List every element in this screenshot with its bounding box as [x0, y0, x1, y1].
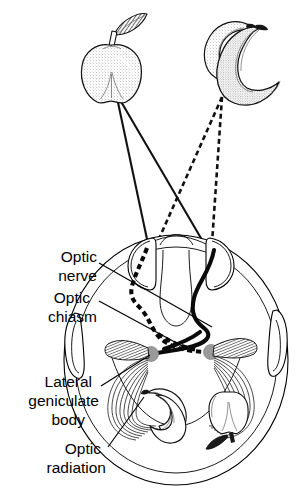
figure-canvas: Optic nerve Optic chiasm Lateral genicul…	[0, 0, 308, 490]
banana-illustration	[204, 22, 280, 106]
label-lateral-geniculate-line3: body	[51, 411, 85, 428]
label-optic-radiation-line2: radiation	[47, 459, 106, 476]
label-optic-chiasm-line2: chiasm	[48, 308, 97, 325]
apple-light-rays	[116, 93, 212, 258]
label-lateral-geniculate-line1: Lateral	[45, 373, 92, 390]
banana-light-rays	[150, 97, 222, 259]
label-optic-chiasm-line1: Optic	[54, 289, 90, 306]
apple-illustration	[81, 14, 147, 103]
banana-front	[217, 27, 279, 105]
label-optic-radiation-line1: Optic	[65, 440, 101, 457]
label-lateral-geniculate-line2: geniculate	[28, 392, 99, 409]
label-optic-nerve-line2: nerve	[58, 267, 97, 284]
visual-pathway-diagram: Optic nerve Optic chiasm Lateral genicul…	[0, 0, 308, 490]
light-rays	[116, 93, 222, 259]
label-optic-nerve-line1: Optic	[61, 248, 97, 265]
